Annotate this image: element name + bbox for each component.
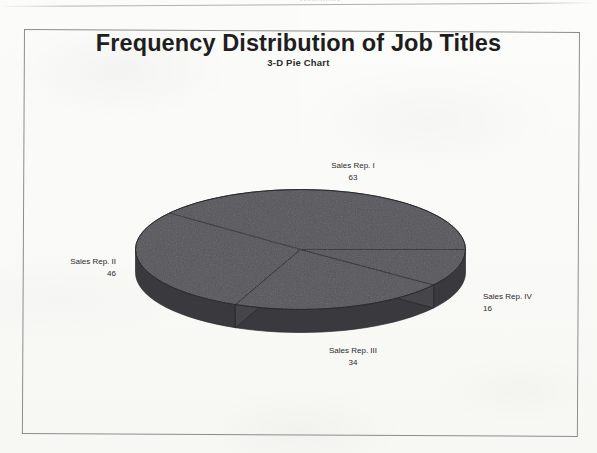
slice-label-sales-rep-iii: Sales Rep. III 34 [312,345,394,368]
slice-label-value: 34 [312,357,394,369]
slice-label-sales-rep-ii: Sales Rep. II 46 [28,256,116,279]
slice-label-name: Sales Rep. IV [483,291,573,303]
slice-label-value: 46 [28,268,116,280]
slice-label-name: Sales Rep. I [308,160,398,172]
pie-slices-group [135,190,465,333]
pie-chart-graphic [0,0,597,453]
slice-label-value: 16 [483,303,573,315]
slice-label-sales-rep-i: Sales Rep. I 63 [308,160,398,183]
slice-label-sales-rep-iv: Sales Rep. IV 16 [483,291,573,314]
slice-label-value: 63 [308,172,398,184]
slice-label-name: Sales Rep. II [28,256,116,268]
slice-label-name: Sales Rep. III [312,345,394,357]
